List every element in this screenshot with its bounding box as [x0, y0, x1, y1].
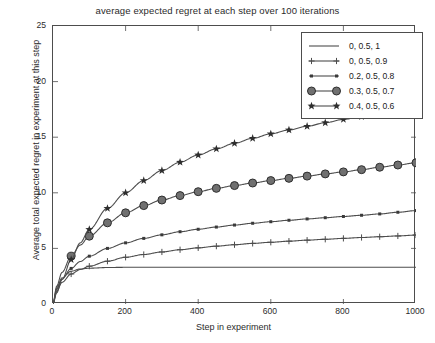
series-marker [342, 215, 345, 218]
series-marker [251, 222, 254, 225]
legend-item: 0, 0.5, 1 [306, 38, 418, 53]
series-marker [179, 230, 182, 233]
chart-legend: 0, 0.5, 10, 0.5, 0.90.2, 0.5, 0.80.3, 0.… [301, 32, 423, 119]
legend-marker-circle-icon [306, 84, 342, 98]
legend-marker-star-icon [306, 99, 342, 113]
series-marker [321, 170, 329, 178]
x-tick-label: 200 [105, 306, 145, 316]
series-marker [122, 209, 130, 217]
series-marker [378, 212, 381, 215]
legend-item: 0.4, 0.5, 0.6 [306, 98, 418, 113]
legend-label: 0.4, 0.5, 0.6 [342, 101, 394, 111]
legend-marker-dot-icon [306, 69, 342, 83]
series-marker [215, 226, 218, 229]
series-marker [106, 247, 109, 250]
series-marker [88, 255, 91, 258]
series-marker [308, 101, 316, 109]
series-marker [103, 219, 111, 227]
series-marker [415, 209, 417, 212]
series-4 [53, 105, 416, 304]
legend-marker-none-icon [306, 39, 342, 53]
series-marker [160, 233, 163, 236]
series-marker [140, 202, 148, 210]
series-marker [212, 184, 220, 192]
series-marker [333, 101, 341, 109]
series-marker [122, 189, 130, 197]
series-marker [358, 166, 366, 174]
series-marker [197, 228, 200, 231]
series-marker [158, 166, 166, 174]
x-tick-label: 800 [322, 306, 362, 316]
series-marker [233, 224, 236, 227]
x-tick-label: 1000 [395, 306, 435, 316]
series-marker [249, 179, 257, 187]
series-marker [287, 219, 290, 222]
series-marker [176, 192, 184, 200]
x-tick-label: 400 [177, 306, 217, 316]
series-marker [285, 126, 293, 134]
series-marker [308, 87, 316, 95]
series-marker [231, 139, 239, 147]
legend-label: 0.2, 0.5, 0.8 [342, 71, 394, 81]
series-marker [394, 161, 402, 169]
series-marker [360, 214, 363, 217]
series-marker [412, 159, 416, 167]
series-marker [267, 177, 275, 185]
legend-item: 0.3, 0.5, 0.7 [306, 83, 418, 98]
series-marker [339, 168, 347, 176]
legend-item: 0.2, 0.5, 0.8 [306, 68, 418, 83]
series-marker [212, 145, 220, 153]
series-marker [249, 134, 257, 142]
y-axis-label: Average total expected regret in experim… [31, 20, 41, 280]
series-marker [310, 74, 313, 77]
series-marker [124, 241, 127, 244]
series-marker [269, 220, 272, 223]
series-marker [231, 182, 239, 190]
series-marker [194, 188, 202, 196]
x-tick-label: 600 [250, 306, 290, 316]
series-marker [142, 237, 145, 240]
series-marker [140, 176, 148, 184]
series-marker [285, 174, 293, 182]
x-axis-tick-labels: 02004006008001000 [52, 306, 415, 320]
series-marker [335, 74, 338, 77]
series-marker [324, 216, 327, 219]
series-marker [158, 196, 166, 204]
series-marker [303, 122, 311, 130]
series-marker [194, 151, 202, 159]
series-marker [321, 119, 329, 127]
series-marker [70, 267, 73, 270]
series-3 [53, 159, 416, 304]
x-tick-label: 0 [32, 306, 72, 316]
chart-figure: average expected regret at each step ove… [0, 0, 435, 343]
series-marker [333, 87, 341, 95]
legend-marker-plus-icon [306, 54, 342, 68]
series-marker [306, 217, 309, 220]
legend-label: 0.3, 0.5, 0.7 [342, 86, 394, 96]
legend-label: 0, 0.5, 0.9 [342, 56, 387, 66]
series-marker [303, 172, 311, 180]
legend-label: 0, 0.5, 1 [342, 41, 380, 51]
series-marker [376, 163, 384, 171]
series-marker [267, 130, 275, 138]
chart-title: average expected regret at each step ove… [0, 5, 435, 16]
legend-item: 0, 0.5, 0.9 [306, 53, 418, 68]
series-marker [176, 158, 184, 166]
series-marker [396, 211, 399, 214]
x-axis-label: Step in experiment [52, 322, 415, 332]
series-line [53, 267, 416, 304]
series-0 [53, 267, 416, 304]
series-marker [103, 204, 111, 212]
